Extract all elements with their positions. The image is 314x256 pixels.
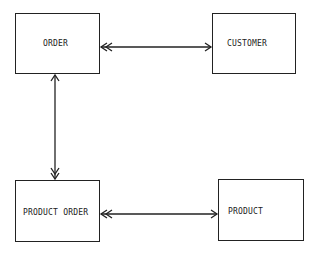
relationship-order-customer — [101, 43, 211, 51]
relationship-lines — [0, 0, 314, 256]
relationship-product-order-product — [101, 210, 217, 218]
relationship-order-product-order — [51, 75, 59, 179]
